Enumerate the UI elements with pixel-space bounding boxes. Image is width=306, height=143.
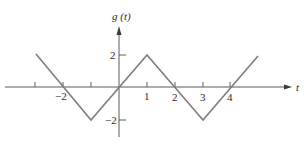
y-axis-arrow-icon [117,26,122,35]
y-axis-label: g (t) [112,10,131,23]
x-axis-arrow-icon [284,85,292,90]
x-tick-label-neg2: −2 [55,90,67,102]
y-tick-label-2: 2 [110,49,116,61]
x-tick-label-3: 3 [200,91,206,103]
y-tick-label-neg2: −2 [105,114,117,126]
x-ticks [35,82,230,87]
x-tick-label-4: 4 [227,91,233,103]
x-tick-label-2: 2 [172,91,178,103]
x-axis-label: t [296,81,300,93]
x-tick-label-1: 1 [144,90,150,102]
triangle-wave-plot: g (t) t −2 1 2 3 4 2 −2 [0,0,306,143]
